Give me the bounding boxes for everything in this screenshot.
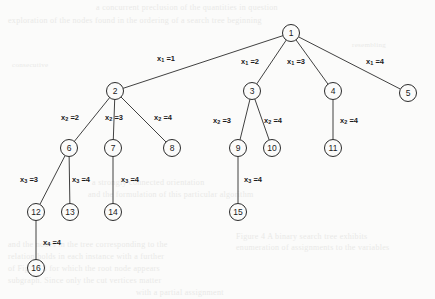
tree-edge-label: x2 =4 <box>264 116 283 125</box>
tree-node: 10 <box>264 140 281 157</box>
tree-edge-label: x1 =4 <box>366 57 385 66</box>
tree-node: 3 <box>244 83 261 100</box>
tree-node-label: 16 <box>31 263 41 273</box>
tree-node: 12 <box>28 204 45 221</box>
tree-canvas: x1 =1x1 =2x1 =3x1 =4x2 =2x2 =3x2 =4x2 =3… <box>0 0 435 299</box>
tree-edge-label: x2 =3 <box>105 113 123 122</box>
tree-node: 4 <box>325 83 342 100</box>
tree-node-label: 1 <box>289 28 294 38</box>
tree-edge-label: x1 =3 <box>287 57 305 66</box>
tree-node-label: 5 <box>406 88 411 98</box>
tree-edge <box>299 37 401 89</box>
tree-node: 11 <box>325 140 342 157</box>
tree-node-label: 12 <box>31 207 41 217</box>
tree-node-label: 4 <box>331 86 336 96</box>
tree-edge <box>40 156 65 205</box>
tree-edge-label: x1 =2 <box>241 57 259 66</box>
tree-node-label: 10 <box>267 143 277 153</box>
tree-edge-label: x4 =4 <box>43 238 62 247</box>
tree-edge-label: x2 =4 <box>340 116 359 125</box>
tree-edge <box>257 40 287 84</box>
tree-node-label: 9 <box>236 143 241 153</box>
tree-nodes-group: 12345678910111213141516 <box>28 25 417 277</box>
tree-node: 14 <box>105 204 122 221</box>
tree-edge-label: x3 =4 <box>121 175 140 184</box>
tree-node-label: 11 <box>329 143 338 153</box>
tree-node: 2 <box>107 83 124 100</box>
tree-node: 15 <box>230 204 247 221</box>
tree-node: 13 <box>62 204 79 221</box>
tree-node: 6 <box>61 140 78 157</box>
tree-edges-group <box>36 36 400 260</box>
tree-edge-label: x3 =4 <box>244 175 263 184</box>
tree-node: 5 <box>400 85 417 102</box>
tree-node-label: 8 <box>170 143 175 153</box>
tree-node-label: 15 <box>233 207 243 217</box>
tree-node: 9 <box>230 140 247 157</box>
tree-node-label: 13 <box>65 207 75 217</box>
tree-node: 1 <box>283 25 300 42</box>
tree-edge-label: x3 =3 <box>20 175 38 184</box>
tree-edge-label: x2 =4 <box>154 113 173 122</box>
tree-edge-label: x2 =2 <box>61 113 79 122</box>
tree-edge <box>69 156 70 203</box>
tree-edge-label: x2 =3 <box>213 116 231 125</box>
tree-node-label: 14 <box>108 207 118 217</box>
tree-edge-label: x1 =1 <box>157 54 175 63</box>
tree-node-label: 3 <box>250 86 255 96</box>
search-tree-figure: a concurrent preclusion of the quantitie… <box>0 0 435 299</box>
tree-edge-label: x3 =4 <box>72 175 91 184</box>
tree-node: 7 <box>105 140 122 157</box>
tree-edge <box>240 99 250 139</box>
tree-node-label: 6 <box>67 143 72 153</box>
tree-node: 8 <box>164 140 181 157</box>
tree-node-label: 2 <box>113 86 118 96</box>
tree-node-label: 7 <box>111 143 116 153</box>
tree-node: 16 <box>28 260 45 277</box>
